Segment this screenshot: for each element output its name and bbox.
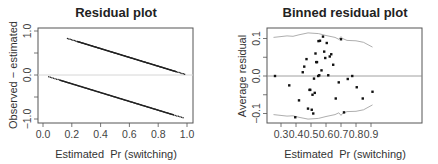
x-tick-label: 0.8 [349, 128, 364, 140]
binned-residual-plot-panel: Binned residual plot 0.30.40.50.60.70.80… [236, 5, 422, 160]
binned-point [319, 40, 321, 42]
binned-point [313, 77, 315, 79]
residual-point [177, 71, 179, 73]
binned-point [362, 97, 364, 99]
residual-point [75, 40, 77, 42]
x-tick-label: 1.0 [180, 128, 195, 140]
residual-point [184, 74, 186, 76]
x-tick-label: 0.4 [93, 128, 108, 140]
residual-point [72, 39, 74, 41]
residual-point [181, 73, 183, 75]
x-tick-label: 0.6 [319, 128, 334, 140]
binned-point [338, 81, 340, 83]
y-tick-label: 1.0 [21, 24, 33, 39]
binned-point [335, 97, 337, 99]
binned-point [311, 94, 313, 96]
residual-point [57, 79, 59, 81]
binned-point [302, 71, 304, 73]
binned-point [356, 86, 358, 88]
upper-error-bound-line [274, 33, 373, 47]
residual-point [53, 77, 55, 79]
residual-point [67, 38, 69, 40]
binned-point [314, 92, 316, 94]
lower-error-bound-line [274, 105, 373, 119]
binned-point [327, 74, 329, 76]
residual-point [182, 117, 184, 119]
residual-point [56, 78, 58, 80]
residual-point [176, 115, 178, 117]
binned-point [324, 57, 326, 59]
binned-point [288, 84, 290, 86]
residual-point [69, 39, 71, 41]
binned-point [314, 52, 316, 54]
binned-point [294, 116, 296, 118]
residual-point [178, 72, 180, 74]
residual-point [74, 40, 76, 42]
binned-point [351, 75, 353, 77]
x-tick-label: 0.4 [289, 128, 304, 140]
y-axis-ticks: −0.10.00.1 [250, 31, 267, 124]
residual-point [180, 72, 182, 74]
binned-point [347, 78, 349, 80]
binned-point [307, 107, 309, 109]
binned-point [312, 112, 314, 114]
x-tick-label: 0.3 [274, 128, 289, 140]
binned-point [311, 109, 313, 111]
binned-point [343, 111, 345, 113]
binned-point [322, 35, 324, 37]
binned-residual-plot-title: Binned residual plot [283, 5, 409, 20]
residual-point [50, 76, 52, 78]
residual-point [176, 71, 178, 73]
binned-plot-frame [267, 28, 422, 123]
residual-point [181, 117, 183, 119]
residual-plot-title: Residual plot [75, 5, 157, 20]
x-axis-label: Estimated Pr (switching) [55, 148, 177, 160]
binned-point [303, 65, 305, 67]
binned-point [309, 89, 311, 91]
binned-point [318, 74, 320, 76]
binned-point [371, 91, 373, 93]
figure: Residual plot 0.00.20.40.60.81.0 −1.00.0… [0, 0, 438, 164]
x-tick-label: 0.7 [334, 128, 349, 140]
residual-point [173, 114, 175, 116]
binned-point [298, 99, 300, 101]
x-tick-label: 0.5 [304, 128, 319, 140]
residual-point [178, 116, 180, 118]
x-tick-label: 0.9 [364, 128, 379, 140]
y-tick-label: 0.0 [21, 68, 33, 83]
x-tick-label: 0.6 [122, 128, 137, 140]
x-axis-ticks: 0.00.20.40.60.81.0 [36, 123, 195, 140]
binned-point [332, 64, 334, 66]
x-tick-label: 0.8 [151, 128, 166, 140]
residual-plot-panel: Residual plot 0.00.20.40.60.81.0 −1.00.0… [7, 5, 194, 160]
binned-residual-points [274, 35, 374, 118]
x-axis-ticks: 0.30.40.50.60.70.80.9 [274, 123, 379, 140]
y-tick-label: −1.0 [21, 108, 33, 129]
binned-point [316, 61, 318, 63]
y-tick-label: 0.1 [250, 31, 262, 46]
x-tick-label: 0.0 [36, 128, 51, 140]
binned-point [305, 58, 307, 60]
residual-point [68, 38, 70, 40]
residual-point [54, 78, 56, 80]
y-tick-label: 0.0 [250, 69, 262, 84]
binned-point [329, 55, 331, 57]
y-axis-label: Average residual [236, 35, 248, 117]
residual-point [71, 39, 73, 41]
x-tick-label: 0.2 [64, 128, 79, 140]
binned-point [323, 50, 325, 52]
binned-point [320, 69, 322, 71]
residual-point [51, 77, 53, 79]
residual-point [183, 73, 185, 75]
binned-point [326, 42, 328, 44]
residual-point [48, 76, 50, 78]
x-axis-label: Estimated Pr (switching) [284, 148, 406, 160]
residual-points [48, 38, 185, 119]
residual-point [175, 115, 177, 117]
y-axis-label: Observed − estimated [7, 21, 19, 129]
binned-point [340, 38, 342, 40]
residual-point [179, 116, 181, 118]
binned-point [274, 75, 276, 77]
y-tick-label: −0.1 [250, 103, 262, 124]
y-axis-ticks: −1.00.01.0 [21, 24, 38, 130]
